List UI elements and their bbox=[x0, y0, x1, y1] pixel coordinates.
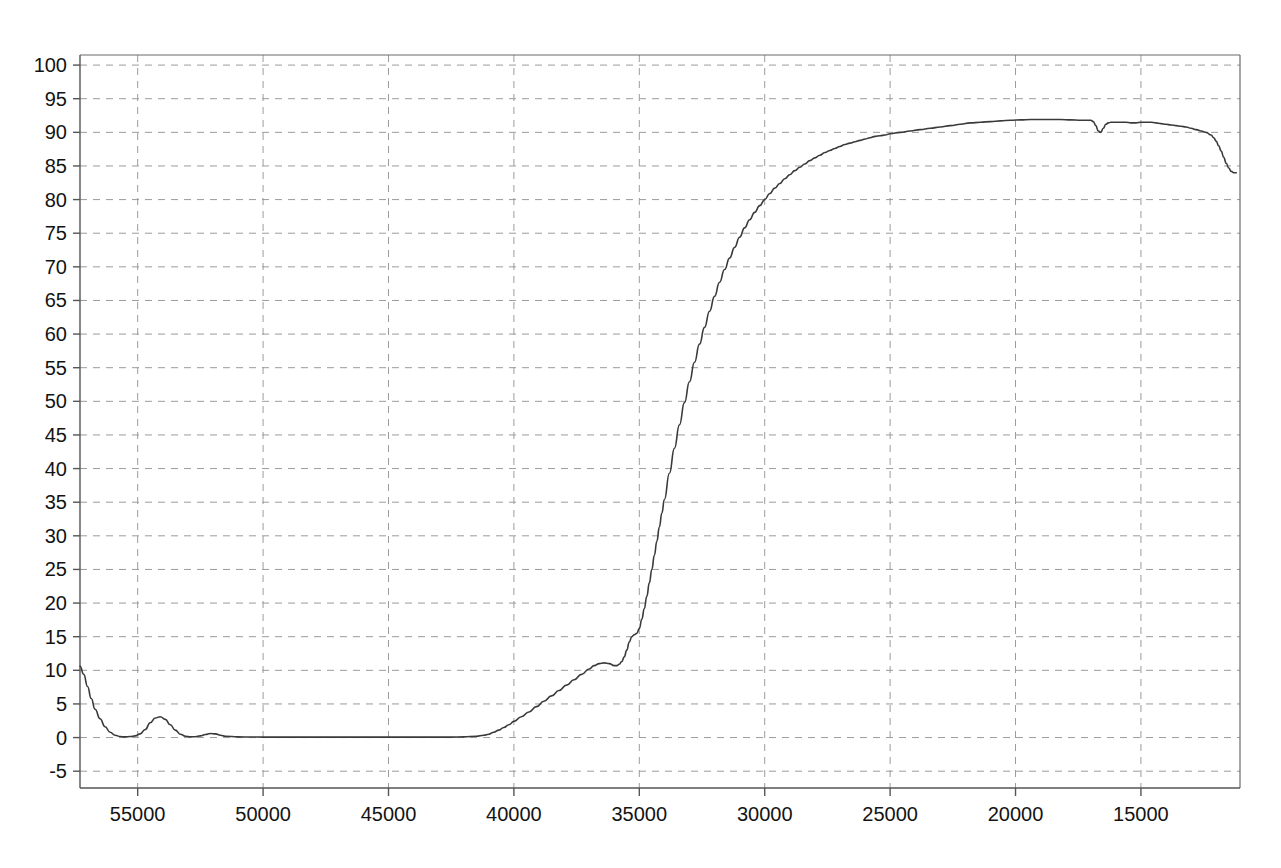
y-tick-label: 65 bbox=[45, 289, 67, 311]
x-tick-label: 20000 bbox=[988, 803, 1044, 825]
x-tick-label: 35000 bbox=[611, 803, 667, 825]
y-tick-label: 5 bbox=[56, 693, 67, 715]
y-tick-label: 0 bbox=[56, 727, 67, 749]
x-tick-label: 55000 bbox=[110, 803, 166, 825]
y-tick-label: -5 bbox=[49, 760, 67, 782]
y-tick-label: 70 bbox=[45, 256, 67, 278]
y-tick-label: 60 bbox=[45, 323, 67, 345]
y-tick-label: 35 bbox=[45, 491, 67, 513]
x-tick-label: 50000 bbox=[235, 803, 291, 825]
y-tick-label: 55 bbox=[45, 357, 67, 379]
y-tick-label: 25 bbox=[45, 558, 67, 580]
y-tick-label: 40 bbox=[45, 458, 67, 480]
transmittance-chart: 1009590858075706560555045403530252015105… bbox=[0, 0, 1281, 868]
y-tick-label: 95 bbox=[45, 88, 67, 110]
x-tick-label: 30000 bbox=[737, 803, 793, 825]
y-tick-label: 30 bbox=[45, 525, 67, 547]
y-tick-label: 15 bbox=[45, 626, 67, 648]
x-tick-label: 15000 bbox=[1113, 803, 1169, 825]
x-tick-label: 45000 bbox=[361, 803, 417, 825]
x-tick-label: 25000 bbox=[862, 803, 918, 825]
y-tick-label: 85 bbox=[45, 155, 67, 177]
x-axis-tick-labels: 5500050000450004000035000300002500020000… bbox=[110, 803, 1169, 825]
y-tick-label: 100 bbox=[34, 54, 67, 76]
y-tick-label: 75 bbox=[45, 222, 67, 244]
y-tick-label: 45 bbox=[45, 424, 67, 446]
y-tick-label: 80 bbox=[45, 189, 67, 211]
y-tick-label: 20 bbox=[45, 592, 67, 614]
y-tick-label: 50 bbox=[45, 390, 67, 412]
y-tick-label: 90 bbox=[45, 121, 67, 143]
y-tick-label: 10 bbox=[45, 659, 67, 681]
x-tick-label: 40000 bbox=[486, 803, 542, 825]
spectrum-plot-svg: 1009590858075706560555045403530252015105… bbox=[0, 0, 1281, 868]
